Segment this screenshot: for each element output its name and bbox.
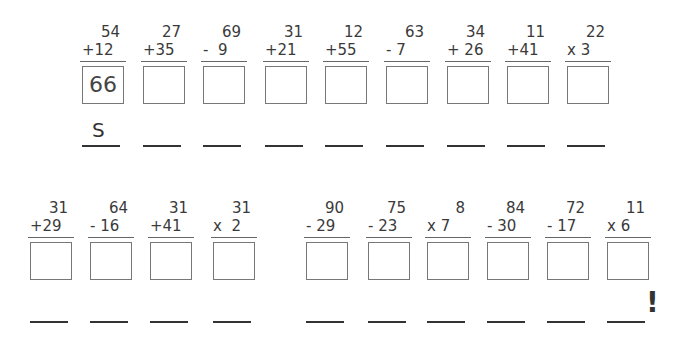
letter-blank[interactable] — [306, 321, 344, 323]
bottom-operand: +41 — [150, 218, 182, 234]
answer-box[interactable] — [567, 66, 609, 104]
sum-rule — [605, 237, 651, 238]
sum-rule — [304, 237, 350, 238]
letter-blank[interactable] — [325, 145, 363, 147]
sum-rule — [88, 237, 134, 238]
answer-box[interactable] — [213, 242, 255, 280]
sum-rule — [211, 237, 257, 238]
answer-box[interactable] — [368, 242, 410, 280]
letter-blank[interactable] — [82, 145, 120, 147]
letter-blank[interactable] — [507, 145, 545, 147]
top-operand: 27 — [162, 24, 181, 40]
bottom-operand: +35 — [143, 42, 175, 58]
code-letter: S — [92, 118, 105, 142]
sum-rule — [148, 237, 194, 238]
top-operand: 84 — [506, 200, 525, 216]
bottom-operand: x 7 — [427, 218, 450, 234]
top-operand: 31 — [232, 200, 251, 216]
answer-box[interactable] — [507, 66, 549, 104]
top-operand: 12 — [344, 24, 363, 40]
answer-box[interactable] — [30, 242, 72, 280]
top-operand: 31 — [284, 24, 303, 40]
exclamation-mark: ! — [646, 286, 659, 319]
letter-blank[interactable] — [607, 321, 645, 323]
sum-rule — [425, 237, 471, 238]
answer-box[interactable] — [265, 66, 307, 104]
top-operand: 64 — [109, 200, 128, 216]
answer-box[interactable] — [143, 66, 185, 104]
bottom-operand: +12 — [82, 42, 114, 58]
top-operand: 31 — [169, 200, 188, 216]
answer-box[interactable] — [90, 242, 132, 280]
sum-rule — [366, 237, 412, 238]
bottom-operand: x 6 — [607, 218, 630, 234]
letter-blank[interactable] — [386, 145, 424, 147]
top-operand: 34 — [466, 24, 485, 40]
answer-box[interactable] — [547, 242, 589, 280]
answer-box[interactable] — [306, 242, 348, 280]
top-operand: 75 — [387, 200, 406, 216]
sum-rule — [201, 61, 247, 62]
letter-blank[interactable] — [427, 321, 465, 323]
bottom-operand: - 30 — [487, 218, 516, 234]
bottom-operand: - 7 — [386, 42, 406, 58]
answer-box[interactable] — [427, 242, 469, 280]
bottom-operand: - 17 — [547, 218, 576, 234]
sum-rule — [485, 237, 531, 238]
bottom-operand: x 3 — [567, 42, 590, 58]
letter-blank[interactable] — [90, 321, 128, 323]
letter-blank[interactable] — [203, 145, 241, 147]
sum-rule — [323, 61, 369, 62]
answer-box[interactable] — [203, 66, 245, 104]
letter-blank[interactable] — [368, 321, 406, 323]
bottom-operand: - 16 — [90, 218, 119, 234]
sum-rule — [28, 237, 74, 238]
bottom-operand: - 29 — [306, 218, 335, 234]
sum-rule — [505, 61, 551, 62]
letter-blank[interactable] — [567, 145, 605, 147]
bottom-operand: +41 — [507, 42, 539, 58]
answer-box[interactable]: 66 — [82, 66, 124, 104]
top-operand: 54 — [101, 24, 120, 40]
bottom-operand: +55 — [325, 42, 357, 58]
sum-rule — [545, 237, 591, 238]
letter-blank[interactable] — [143, 145, 181, 147]
top-operand: 31 — [49, 200, 68, 216]
letter-blank[interactable] — [265, 145, 303, 147]
answer-box[interactable] — [386, 66, 428, 104]
sum-rule — [80, 61, 126, 62]
letter-blank[interactable] — [487, 321, 525, 323]
top-operand: 11 — [626, 200, 645, 216]
top-operand: 90 — [325, 200, 344, 216]
letter-blank[interactable] — [30, 321, 68, 323]
letter-blank[interactable] — [547, 321, 585, 323]
top-operand: 11 — [526, 24, 545, 40]
sum-rule — [445, 61, 491, 62]
top-operand: 63 — [405, 24, 424, 40]
letter-blank[interactable] — [213, 321, 251, 323]
bottom-operand: - 9 — [203, 42, 228, 58]
answer-box[interactable] — [487, 242, 529, 280]
letter-blank[interactable] — [447, 145, 485, 147]
sum-rule — [263, 61, 309, 62]
bottom-operand: + 26 — [447, 42, 483, 58]
sum-rule — [141, 61, 187, 62]
bottom-operand: +29 — [30, 218, 62, 234]
top-operand: 72 — [566, 200, 585, 216]
answer-box[interactable] — [607, 242, 649, 280]
answer-box[interactable] — [150, 242, 192, 280]
top-operand: 8 — [455, 200, 465, 216]
top-operand: 22 — [586, 24, 605, 40]
answer-box[interactable] — [325, 66, 367, 104]
letter-blank[interactable] — [150, 321, 188, 323]
bottom-operand: +21 — [265, 42, 297, 58]
sum-rule — [384, 61, 430, 62]
bottom-operand: - 23 — [368, 218, 397, 234]
answer-box[interactable] — [447, 66, 489, 104]
top-operand: 69 — [222, 24, 241, 40]
bottom-operand: x 2 — [213, 218, 241, 234]
sum-rule — [565, 61, 611, 62]
